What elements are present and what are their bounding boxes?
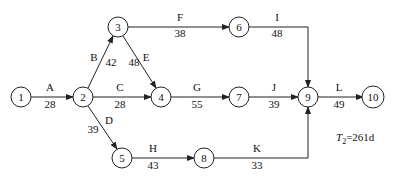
- activity-l-name: L: [336, 81, 343, 93]
- svg-text:7: 7: [236, 91, 242, 103]
- total-duration-label: T2=261d: [336, 131, 375, 146]
- svg-text:2: 2: [80, 91, 86, 103]
- node-7: 7: [229, 87, 249, 107]
- network-diagram: A 28 B 42 C 28 D 39 E 48 F 38 G 55 H 43 …: [0, 0, 397, 181]
- activity-g-name: G: [193, 81, 201, 93]
- activity-j-name: J: [272, 81, 277, 93]
- activity-g-duration: 55: [192, 98, 204, 110]
- node-5: 5: [112, 148, 132, 168]
- activity-e-duration: 48: [129, 56, 141, 68]
- node-1: 1: [11, 87, 31, 107]
- activity-h-duration: 43: [148, 159, 160, 171]
- activity-k-name: K: [253, 142, 261, 154]
- node-8: 8: [194, 148, 214, 168]
- activity-l-duration: 49: [334, 98, 346, 110]
- svg-text:5: 5: [119, 152, 125, 164]
- activity-c-name: C: [116, 81, 123, 93]
- activity-i-duration: 48: [272, 27, 284, 39]
- activity-c-duration: 28: [115, 98, 127, 110]
- activity-a-name: A: [46, 81, 54, 93]
- svg-text:10: 10: [368, 91, 380, 103]
- svg-text:6: 6: [236, 21, 242, 33]
- activity-k-arrow: [214, 107, 308, 158]
- activity-i-name: I: [275, 11, 279, 23]
- svg-text:1: 1: [18, 91, 24, 103]
- node-4: 4: [151, 87, 171, 107]
- activity-b-name: B: [90, 51, 97, 63]
- activity-d-name: D: [105, 114, 113, 126]
- activity-d-duration: 39: [88, 123, 100, 135]
- svg-text:4: 4: [158, 91, 164, 103]
- svg-text:9: 9: [305, 91, 311, 103]
- activity-f-name: F: [177, 11, 183, 23]
- node-10: 10: [362, 86, 384, 108]
- activity-e-name: E: [143, 51, 150, 63]
- activity-f-duration: 38: [175, 27, 187, 39]
- node-9: 9: [298, 87, 318, 107]
- node-3: 3: [108, 17, 128, 37]
- svg-text:8: 8: [201, 152, 207, 164]
- activity-b-duration: 42: [106, 56, 117, 68]
- activity-j-duration: 39: [269, 98, 281, 110]
- activity-k-duration: 33: [252, 159, 264, 171]
- activity-a-duration: 28: [45, 98, 57, 110]
- svg-text:3: 3: [115, 21, 121, 33]
- node-2: 2: [73, 87, 93, 107]
- activity-h-name: H: [149, 142, 157, 154]
- node-6: 6: [229, 17, 249, 37]
